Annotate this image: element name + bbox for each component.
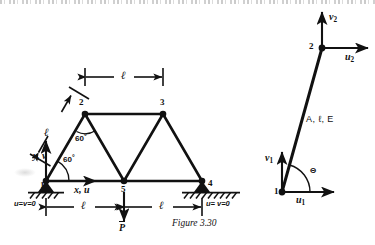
dimension-label-bottom-left: ℓ [81,199,86,211]
figure-canvas: 1 2 3 4 5 60° 60° ℓ ℓ ℓ ℓ y, v x, u u=v=… [0,0,375,245]
boundary-condition-node-1: u=v=0 [14,199,36,208]
boundary-condition-node-4: u= v=0 [206,199,230,208]
truss-node-label-4: 4 [208,178,213,188]
member-2-5 [85,114,124,181]
angle-label-node-2: 60° [75,133,87,143]
element-angle-arc [290,165,311,192]
figure-caption: Figure 3.30 [172,218,217,228]
element-node-label-1: 1 [274,186,279,196]
element-dof-label-u1: u1 [296,194,305,207]
truss-node-label-3: 3 [160,97,165,107]
element-dof-label-v2: v2 [329,11,337,24]
truss-node-label-5: 5 [121,184,126,194]
member-5-3 [124,114,163,181]
angle-label-node-1: 60° [63,154,75,164]
element-dof-label-u2: u2 [345,51,354,64]
element-node-label-2: 2 [309,41,314,51]
truss-node-label-2: 2 [79,97,84,107]
joint-3 [160,111,167,118]
truss-joints [43,111,206,185]
dimension-label-top: ℓ [121,69,126,81]
element-properties-label: A, ℓ, E [306,114,334,124]
dimension-label-diagonal: ℓ [44,126,49,138]
support-node-1 [28,181,64,199]
load-label-P: P [119,222,125,233]
joint-2 [82,111,89,118]
element-angle-label-theta: Θ [310,166,316,175]
axis-label-x: x, u [74,184,90,195]
member-3-4 [163,114,202,181]
truss-members [46,114,202,181]
member-1-2 [46,114,85,181]
axis-label-y: y, v [33,150,47,161]
element-dof-arrows [282,12,368,192]
element-dof-label-v1: v1 [265,152,273,165]
truss-node-label-1: 1 [40,180,45,190]
dimension-label-bottom-right: ℓ [159,199,164,211]
